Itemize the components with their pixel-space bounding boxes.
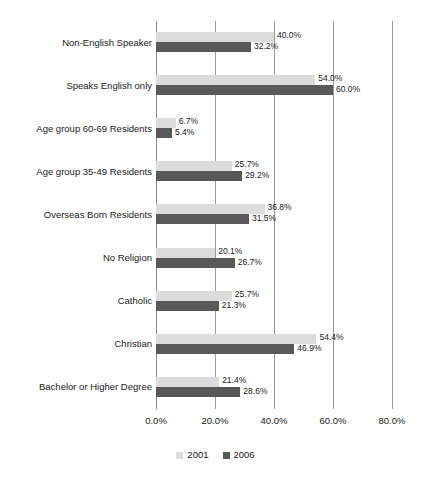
legend-swatch-icon <box>176 452 183 459</box>
bar-group: 36.8%31.5% <box>156 193 392 236</box>
bar-value-label: 21.4% <box>222 375 246 385</box>
legend-item-2001[interactable]: 2001 <box>176 449 208 461</box>
category-label: Christian <box>4 338 152 349</box>
bar-value-label: 54.4% <box>319 332 343 342</box>
bar-2001 <box>156 204 265 214</box>
x-tick-label: 40.0% <box>261 415 288 427</box>
legend-label: 2006 <box>234 449 255 461</box>
x-tick-label: 60.0% <box>320 415 347 427</box>
bar-value-label: 46.9% <box>297 343 321 353</box>
bar-2001 <box>156 334 316 344</box>
bar-chart: Non-English SpeakerSpeaks English onlyAg… <box>0 0 431 483</box>
category-label: Overseas Born Residents <box>4 209 152 220</box>
bar-value-label: 6.7% <box>179 116 198 126</box>
bar-group: 25.7%21.3% <box>156 280 392 323</box>
bar-value-label: 21.3% <box>222 300 246 310</box>
category-label: Age group 35-49 Residents <box>4 166 152 177</box>
bar-group: 21.4%28.6% <box>156 366 392 409</box>
x-tick-label: 80.0% <box>379 415 406 427</box>
legend-swatch-icon <box>223 452 230 459</box>
bar-group: 20.1%26.7% <box>156 237 392 280</box>
bar-value-label: 28.6% <box>243 386 267 396</box>
category-axis-labels: Non-English SpeakerSpeaks English onlyAg… <box>0 21 152 409</box>
bar-group: 54.4%46.9% <box>156 323 392 366</box>
bar-2001 <box>156 118 176 128</box>
bar-2006 <box>156 214 249 224</box>
bar-value-label: 25.7% <box>235 289 259 299</box>
bar-value-label: 20.1% <box>218 246 242 256</box>
gridline-800 <box>392 21 393 409</box>
bar-2001 <box>156 75 315 85</box>
bar-value-label: 26.7% <box>238 257 262 267</box>
plot-area: 40.0%32.2%54.0%60.0%6.7%5.4%25.7%29.2%36… <box>156 21 392 409</box>
bar-2006 <box>156 171 242 181</box>
x-tick-label: 20.0% <box>202 415 229 427</box>
bar-2001 <box>156 248 215 258</box>
bar-value-label: 54.0% <box>318 73 342 83</box>
legend-item-2006[interactable]: 2006 <box>223 449 255 461</box>
value-axis-labels: 0.0%20.0%40.0%60.0%80.0% <box>156 415 392 431</box>
bar-value-label: 5.4% <box>175 127 194 137</box>
bar-value-label: 36.8% <box>268 202 292 212</box>
bar-2006 <box>156 344 294 354</box>
bar-group: 6.7%5.4% <box>156 107 392 150</box>
category-label: Bachelor or Higher Degree <box>4 381 152 392</box>
category-label: No Religion <box>4 252 152 263</box>
bar-group: 25.7%29.2% <box>156 150 392 193</box>
category-label: Age group 60-69 Residents <box>4 123 152 134</box>
bar-2006 <box>156 128 172 138</box>
bar-2006 <box>156 387 240 397</box>
bar-value-label: 60.0% <box>336 84 360 94</box>
bar-2001 <box>156 377 219 387</box>
category-label: Speaks English only <box>4 80 152 91</box>
bar-value-label: 29.2% <box>245 170 269 180</box>
bar-value-label: 31.5% <box>252 213 276 223</box>
legend-label: 2001 <box>187 449 208 461</box>
bar-2006 <box>156 42 251 52</box>
bar-value-label: 25.7% <box>235 159 259 169</box>
bar-2006 <box>156 301 219 311</box>
bar-2006 <box>156 85 333 95</box>
category-label: Catholic <box>4 295 152 306</box>
bar-2006 <box>156 258 235 268</box>
chart-legend: 20012006 <box>0 449 431 461</box>
bar-2001 <box>156 161 232 171</box>
category-label: Non-English Speaker <box>4 37 152 48</box>
bar-2001 <box>156 291 232 301</box>
bar-group: 40.0%32.2% <box>156 21 392 64</box>
x-tick-label: 0.0% <box>145 415 167 427</box>
bar-value-label: 40.0% <box>277 30 301 40</box>
bar-group: 54.0%60.0% <box>156 64 392 107</box>
bar-value-label: 32.2% <box>254 41 278 51</box>
